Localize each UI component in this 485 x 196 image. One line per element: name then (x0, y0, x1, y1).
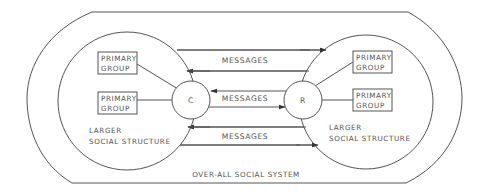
social-system-diagram: C R MESSAGES MESSAGES MESSAGES PRIMARY G… (0, 0, 485, 196)
left-structure-label-line1: LARGER (89, 126, 122, 135)
messages-label-bottom: MESSAGES (222, 132, 269, 141)
left-primary-group-2: PRIMARY GROUP (98, 92, 137, 114)
messages-label-top: MESSAGES (222, 56, 269, 65)
right-structure-label-line1: LARGER (329, 123, 362, 132)
right-primary-group-1-line2: GROUP (356, 63, 385, 72)
right-primary-group-1-line1: PRIMARY (356, 53, 392, 62)
node-c-label: C (188, 96, 194, 105)
right-primary-group-2-line2: GROUP (356, 101, 385, 110)
left-primary-group-2-line1: PRIMARY (101, 94, 137, 103)
left-primary-group-1-line1: PRIMARY (101, 54, 137, 63)
left-primary-group-2-line2: GROUP (101, 104, 130, 113)
right-primary-group-2: PRIMARY GROUP (353, 89, 392, 111)
left-primary-group-1-line2: GROUP (101, 64, 130, 73)
overall-social-system-label: OVER-ALL SOCIAL SYSTEM (192, 170, 300, 179)
right-structure-label-line2: SOCIAL STRUCTURE (329, 134, 411, 143)
left-primary-group-1: PRIMARY GROUP (98, 52, 137, 74)
left-structure-label-line2: SOCIAL STRUCTURE (89, 137, 171, 146)
node-r-label: R (300, 96, 306, 105)
right-primary-group-2-line1: PRIMARY (356, 91, 392, 100)
right-primary-group-1: PRIMARY GROUP (353, 51, 392, 73)
messages-label-middle: MESSAGES (222, 94, 269, 103)
